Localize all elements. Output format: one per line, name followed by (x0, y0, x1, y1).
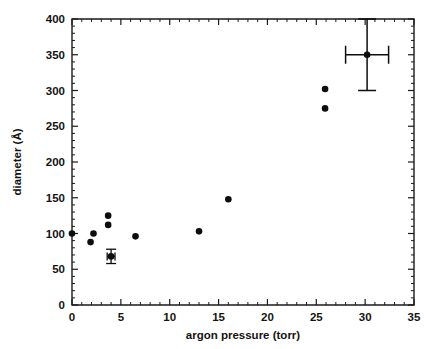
data-point-marker (225, 196, 232, 203)
data-point-group (69, 230, 76, 237)
x-tick-label: 15 (212, 311, 225, 323)
x-axis-label: argon pressure (torr) (186, 329, 301, 341)
y-tick-label: 400 (46, 13, 65, 25)
data-point-group (322, 105, 329, 112)
y-tick-label: 250 (46, 120, 65, 132)
data-point-marker (90, 230, 97, 237)
y-axis-major-ticks (72, 19, 414, 305)
y-axis-tick-labels: 050100150200250300350400 (46, 13, 65, 311)
data-point-group (132, 233, 139, 240)
data-point-group (105, 212, 112, 219)
data-point-marker (196, 228, 203, 235)
data-point-group (105, 222, 112, 229)
data-point-marker (87, 239, 94, 246)
plot-canvas: 05101520253035 050100150200250300350400 … (0, 0, 433, 349)
data-point-marker (108, 253, 115, 260)
data-point-group (87, 239, 94, 246)
scatter-plot-figure: 05101520253035 050100150200250300350400 … (0, 0, 433, 349)
x-tick-label: 0 (69, 311, 75, 323)
data-point-group (196, 228, 203, 235)
data-point-marker (132, 233, 139, 240)
data-point-marker (322, 86, 329, 93)
data-point-marker (69, 230, 76, 237)
y-tick-label: 100 (46, 228, 65, 240)
y-tick-label: 300 (46, 85, 65, 97)
x-tick-label: 25 (310, 311, 323, 323)
data-point-group (225, 196, 232, 203)
data-point-marker (364, 51, 371, 58)
data-point-marker (105, 212, 112, 219)
data-point-marker (105, 222, 112, 229)
x-axis-major-ticks (72, 19, 414, 305)
plot-frame (72, 19, 414, 305)
x-tick-label: 10 (163, 311, 176, 323)
data-point-group (346, 19, 389, 91)
y-axis-label: diameter (Å) (11, 128, 23, 195)
y-tick-label: 0 (59, 299, 65, 311)
y-tick-label: 150 (46, 192, 65, 204)
y-tick-label: 200 (46, 156, 65, 168)
data-point-group (322, 86, 329, 93)
data-points-layer (69, 19, 389, 264)
y-tick-label: 350 (46, 49, 65, 61)
y-tick-label: 50 (52, 263, 65, 275)
data-point-marker (322, 105, 329, 112)
x-tick-label: 20 (261, 311, 274, 323)
x-axis-minor-ticks (82, 19, 404, 305)
x-tick-label: 30 (359, 311, 372, 323)
data-point-group (90, 230, 97, 237)
axes-box (72, 19, 414, 305)
x-axis-tick-labels: 05101520253035 (69, 311, 421, 323)
y-axis-minor-ticks (72, 26, 414, 298)
x-tick-label: 5 (118, 311, 125, 323)
x-tick-label: 35 (408, 311, 421, 323)
data-point-group (106, 249, 116, 263)
